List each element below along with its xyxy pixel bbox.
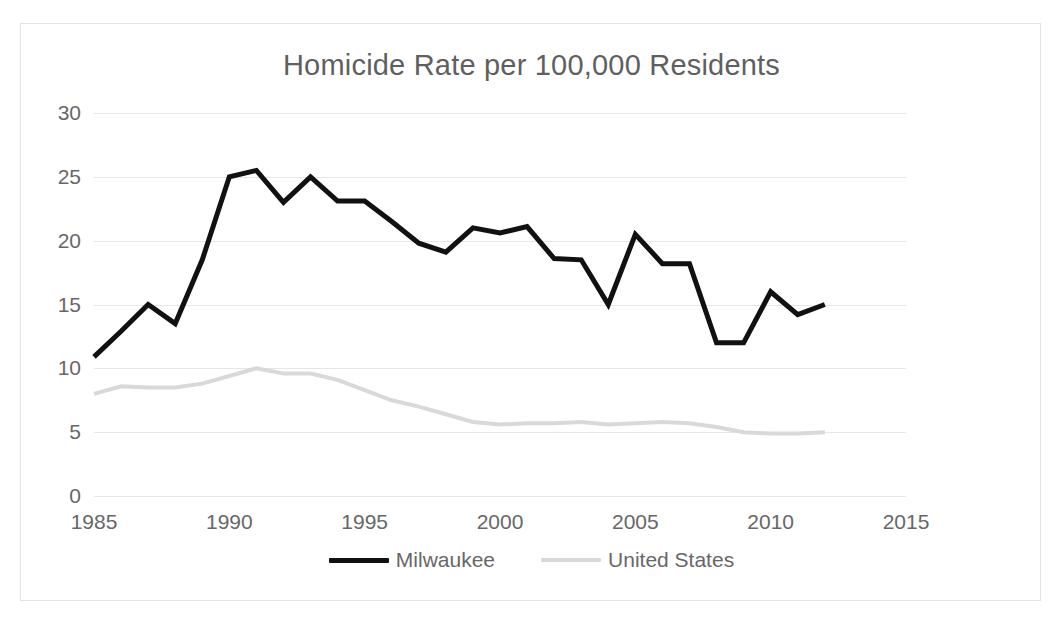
legend-label: United States <box>608 548 734 572</box>
y-tick-0: 0 <box>69 484 81 508</box>
x-tick-1985: 1985 <box>71 510 118 534</box>
y-tick-5: 5 <box>69 420 81 444</box>
y-tick-25: 25 <box>58 165 81 189</box>
x-tick-1995: 1995 <box>341 510 388 534</box>
y-tick-30: 30 <box>58 101 81 125</box>
chart-legend: MilwaukeeUnited States <box>21 548 1042 572</box>
gridline <box>94 496 906 497</box>
legend-label: Milwaukee <box>396 548 495 572</box>
chart-title: Homicide Rate per 100,000 Residents <box>21 49 1042 82</box>
x-tick-2005: 2005 <box>612 510 659 534</box>
series-line-united-states <box>94 368 825 433</box>
y-tick-15: 15 <box>58 293 81 317</box>
series-line-milwaukee <box>94 170 825 356</box>
x-tick-2010: 2010 <box>747 510 794 534</box>
x-tick-2000: 2000 <box>477 510 524 534</box>
legend-swatch-icon <box>541 558 601 562</box>
legend-entry-milwaukee[interactable]: Milwaukee <box>329 548 495 572</box>
chart-figure: Homicide Rate per 100,000 Residents 0510… <box>20 23 1041 601</box>
x-tick-1990: 1990 <box>206 510 253 534</box>
plot-area: 051015202530 198519901995200020052010201… <box>94 113 906 496</box>
legend-swatch-icon <box>329 558 389 563</box>
y-tick-10: 10 <box>58 356 81 380</box>
legend-entry-united-states[interactable]: United States <box>541 548 734 572</box>
series-lines <box>94 113 906 496</box>
x-tick-2015: 2015 <box>883 510 930 534</box>
y-tick-20: 20 <box>58 229 81 253</box>
